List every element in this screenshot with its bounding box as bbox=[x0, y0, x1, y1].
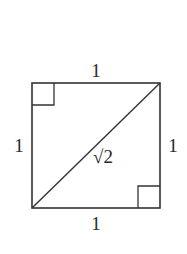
side-label-left: 1 bbox=[14, 135, 24, 156]
side-label-bottom: 1 bbox=[91, 213, 101, 234]
right-angle-marker-bottom-right bbox=[138, 186, 160, 208]
unit-square-diagram: 1 1 1 1 √2 bbox=[0, 0, 187, 254]
right-angle-marker-top-left bbox=[32, 83, 54, 105]
side-label-top: 1 bbox=[91, 60, 101, 81]
diagonal-label: √2 bbox=[93, 146, 113, 167]
side-label-right: 1 bbox=[168, 135, 178, 156]
